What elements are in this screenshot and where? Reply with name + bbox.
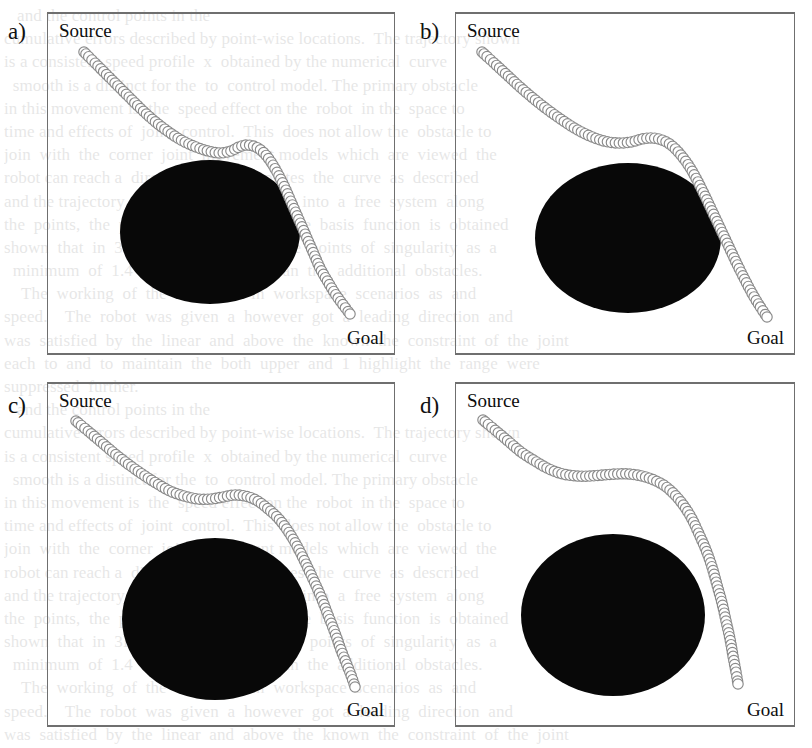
panel-b: b) Source Goal <box>406 0 812 374</box>
panel-a: a) Source Goal <box>0 0 406 374</box>
panel-c-goal-label: Goal <box>347 700 384 719</box>
panel-c-tag: c) <box>8 394 26 417</box>
obstacle-ellipse <box>521 534 705 696</box>
panel-c: c) Source Goal <box>0 374 406 748</box>
panel-b-tag: b) <box>420 20 439 43</box>
panel-d-source-label: Source <box>467 391 520 410</box>
panel-d-goal-label: Goal <box>747 700 784 719</box>
trajectory-circle-marker <box>350 682 360 692</box>
obstacle-ellipse <box>535 163 721 313</box>
panel-d-tag: d) <box>420 394 439 417</box>
panel-b-source-label: Source <box>467 21 520 40</box>
panel-b-goal-label: Goal <box>747 328 784 347</box>
figure-four-panel-path-planning: a) Source Goal b) Source Goal c) Source … <box>0 0 812 748</box>
panel-d-plot-box: Source Goal <box>455 382 795 727</box>
panel-b-canvas <box>456 14 796 357</box>
trajectory-circle-marker <box>345 309 355 319</box>
obstacle-ellipse <box>120 160 300 304</box>
panel-a-source-label: Source <box>59 21 112 40</box>
panel-a-goal-label: Goal <box>347 328 384 347</box>
panel-a-canvas <box>48 14 396 357</box>
panel-c-plot-box: Source Goal <box>47 382 395 727</box>
panel-c-canvas <box>48 384 396 729</box>
panel-a-tag: a) <box>8 20 26 43</box>
panel-a-plot-box: Source Goal <box>47 12 395 355</box>
obstacle-ellipse <box>122 538 308 700</box>
panel-d: d) Source Goal <box>406 374 812 748</box>
trajectory-circle-marker <box>733 679 743 689</box>
panel-c-source-label: Source <box>59 391 112 410</box>
panel-b-plot-box: Source Goal <box>455 12 795 355</box>
trajectory-circle-marker <box>762 312 772 322</box>
panel-d-canvas <box>456 384 796 729</box>
